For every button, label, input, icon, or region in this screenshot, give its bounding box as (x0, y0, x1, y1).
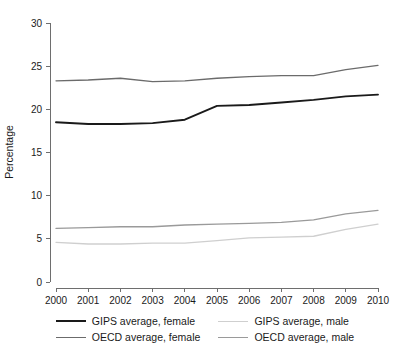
legend-grid: GIPS average, femaleGIPS average, maleOE… (56, 314, 354, 344)
legend-item-label: OECD average, male (254, 330, 354, 344)
x-tick-label: 2005 (206, 295, 229, 306)
legend-item[interactable]: GIPS average, male (218, 314, 354, 328)
legend-item-label: GIPS average, female (92, 314, 195, 328)
x-tick-label: 2008 (302, 295, 325, 306)
x-axis: 2000200120022003200420052006200720082009… (45, 288, 390, 306)
legend-item[interactable]: OECD average, male (218, 330, 354, 344)
series-line (56, 210, 378, 228)
x-tick-label: 2006 (238, 295, 261, 306)
legend-item[interactable]: GIPS average, female (56, 314, 201, 328)
legend-line-swatch (218, 321, 248, 322)
y-tick-label: 30 (31, 18, 43, 29)
chart-legend: GIPS average, femaleGIPS average, maleOE… (0, 311, 410, 362)
legend-item-label: GIPS average, male (254, 314, 349, 328)
x-tick-label: 2009 (335, 295, 358, 306)
legend-line-swatch (56, 337, 86, 338)
legend-item[interactable]: OECD average, female (56, 330, 201, 344)
y-tick-label: 25 (31, 61, 43, 72)
legend-item-label: OECD average, female (92, 330, 201, 344)
y-tick-label: 5 (36, 233, 42, 244)
y-axis-title: Percentage (3, 125, 15, 179)
x-tick-label: 2004 (174, 295, 197, 306)
y-tick-label: 10 (31, 190, 43, 201)
y-axis: 051015202530 (31, 18, 50, 288)
chart-figure: 051015202530 200020012002200320042005200… (0, 0, 410, 362)
line-chart-plot: 051015202530 200020012002200320042005200… (0, 0, 410, 310)
x-tick-label: 2002 (109, 295, 132, 306)
x-tick-label: 2000 (45, 295, 68, 306)
y-tick-label: 0 (36, 277, 42, 288)
legend-line-swatch (56, 320, 86, 322)
y-tick-label: 20 (31, 104, 43, 115)
series-line (56, 65, 378, 81)
series-lines (56, 65, 378, 244)
x-tick-label: 2001 (77, 295, 100, 306)
series-line (56, 95, 378, 124)
x-tick-label: 2007 (270, 295, 293, 306)
y-tick-label: 15 (31, 147, 43, 158)
legend-line-swatch (218, 337, 248, 338)
x-tick-label: 2010 (367, 295, 390, 306)
x-tick-label: 2003 (141, 295, 164, 306)
